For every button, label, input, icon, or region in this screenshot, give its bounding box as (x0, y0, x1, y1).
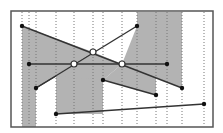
filled-point (54, 112, 58, 116)
filled-point (165, 62, 169, 66)
filled-point (27, 62, 31, 66)
filled-point (101, 78, 105, 82)
filled-point (202, 102, 206, 106)
open-point (71, 61, 77, 67)
filled-point (180, 86, 184, 90)
filled-point (20, 24, 24, 28)
filled-point (34, 86, 38, 90)
open-point (119, 61, 125, 67)
filled-point (135, 24, 139, 28)
filled-point (154, 93, 158, 97)
geometry-diagram (0, 0, 223, 133)
open-point (90, 49, 96, 55)
shaded-center-fill (56, 76, 103, 114)
